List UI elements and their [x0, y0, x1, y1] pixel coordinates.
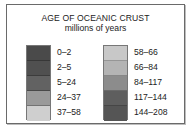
legend-label: 37–58 — [57, 105, 81, 120]
legend-label: 5–24 — [57, 75, 81, 90]
swatch-58-66 — [104, 46, 127, 61]
labels-right: 58–66 66–84 84–117 117–144 144–208 — [134, 45, 167, 120]
legend-subtitle: millions of years — [7, 23, 184, 33]
legend-title: AGE OF OCEANIC CRUST — [7, 13, 184, 23]
swatch-0-2 — [27, 46, 50, 61]
legend-label: 24–37 — [57, 90, 81, 105]
legend-box: AGE OF OCEANIC CRUST millions of years 0… — [6, 4, 185, 124]
legend-label: 144–208 — [134, 105, 167, 120]
legend-label: 2–5 — [57, 60, 81, 75]
labels-left: 0–2 2–5 5–24 24–37 37–58 — [57, 45, 81, 120]
swatch-37-58 — [27, 106, 50, 121]
swatch-144-208 — [104, 106, 127, 121]
legend-label: 84–117 — [134, 75, 167, 90]
legend-label: 66–84 — [134, 60, 167, 75]
swatch-stack-left — [26, 45, 51, 120]
swatch-84-117 — [104, 76, 127, 91]
swatch-66-84 — [104, 61, 127, 76]
legend-label: 58–66 — [134, 45, 167, 60]
swatch-stack-right — [103, 45, 128, 120]
legend-label: 0–2 — [57, 45, 81, 60]
swatch-5-24 — [27, 76, 50, 91]
swatch-117-144 — [104, 91, 127, 106]
swatch-2-5 — [27, 61, 50, 76]
swatch-24-37 — [27, 91, 50, 106]
legend-label: 117–144 — [134, 90, 167, 105]
